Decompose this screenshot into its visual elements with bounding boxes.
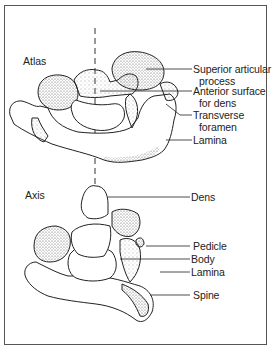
label-atlas-lamina: Lamina: [193, 134, 227, 146]
label-line: foramen: [193, 121, 244, 133]
axis-title: Axis: [25, 189, 45, 201]
label-line: Superior articular: [193, 63, 271, 75]
label-transverse-foramen: Transverse foramen: [193, 109, 244, 133]
label-axis-lamina: Lamina: [191, 266, 225, 278]
label-line: Anterior surface: [193, 85, 266, 97]
atlas-bone: [10, 52, 178, 163]
label-line: Lamina: [193, 134, 227, 146]
vertebrae-illustration: [0, 0, 272, 350]
label-line: Transverse: [193, 109, 244, 121]
label-anterior-surface-for-dens: Anterior surface for dens: [193, 85, 266, 109]
label-body: Body: [191, 253, 215, 265]
label-line: for dens: [193, 97, 266, 109]
label-dens: Dens: [191, 191, 215, 203]
atlas-title: Atlas: [23, 55, 46, 67]
axis-bone: [25, 186, 154, 322]
label-pedicle: Pedicle: [193, 240, 227, 252]
label-superior-articular-process: Superior articular process: [193, 63, 271, 87]
label-spine: Spine: [193, 289, 219, 301]
